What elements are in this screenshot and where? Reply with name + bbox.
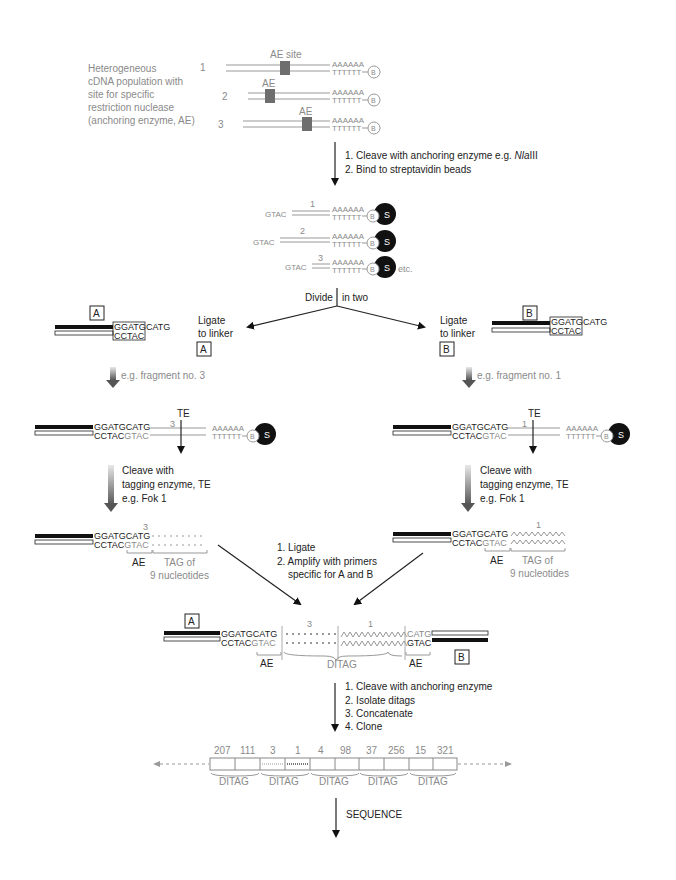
svg-text:1. Ligate: 1. Ligate: [277, 542, 316, 553]
svg-text:CCTACGTAC: CCTACGTAC: [221, 638, 276, 648]
svg-text:1. Cleave with anchoring enzym: 1. Cleave with anchoring enzyme: [345, 681, 493, 692]
svg-text:B: B: [526, 308, 533, 319]
svg-text:TE: TE: [528, 408, 541, 419]
svg-text:B: B: [371, 97, 376, 104]
svg-text:1: 1: [200, 62, 206, 73]
intro-description: Heterogeneous cDNA population with site …: [88, 63, 195, 126]
sage-diagram: Heterogeneous cDNA population with site …: [0, 0, 676, 880]
tag-fragment-a: GGATGCATG CCTACGTAC 3 AE TAG of 9 nucleo…: [35, 522, 209, 581]
svg-text:AE: AE: [262, 78, 276, 89]
svg-text:4. Clone: 4. Clone: [345, 721, 383, 732]
divide-label-left: Divide: [305, 292, 333, 303]
svg-text:S: S: [618, 430, 624, 440]
svg-text:GTAC: GTAC: [253, 238, 275, 247]
svg-text:3: 3: [270, 745, 276, 756]
cdna-2: 2 AE AAAAAA TTTTTT B: [222, 78, 380, 106]
svg-text:S: S: [384, 263, 390, 273]
svg-text:207: 207: [214, 745, 231, 756]
cleave-te-right: Cleave with tagging enzyme, TE e.g. Fok …: [461, 465, 569, 512]
linker-b: B GGATG CATG CCTAC Ligate to linker B e.…: [440, 306, 607, 388]
svg-text:DITAG: DITAG: [368, 776, 398, 787]
svg-text:B: B: [443, 344, 450, 355]
svg-text:TTTTTT: TTTTTT: [332, 68, 361, 77]
svg-text:tagging enzyme, TE: tagging enzyme, TE: [122, 479, 211, 490]
ae-site-block: [302, 117, 312, 131]
svg-text:B: B: [458, 652, 465, 663]
svg-text:37: 37: [366, 745, 378, 756]
svg-text:(anchoring enzyme, AE): (anchoring enzyme, AE): [88, 115, 195, 126]
svg-text:restriction nuclease: restriction nuclease: [88, 102, 175, 113]
bound-fragment-1: GTAC 1 AAAAAA TTTTTT B S: [265, 199, 396, 225]
svg-text:AE: AE: [299, 106, 313, 117]
cleave-te-left: Cleave with tagging enzyme, TE e.g. Fok …: [104, 465, 211, 512]
ae-site-block: [280, 61, 290, 75]
step1-line2: 2. Bind to streptavidin beads: [345, 164, 471, 175]
svg-text:e.g. Fok 1: e.g. Fok 1: [480, 493, 525, 504]
svg-text:etc.: etc.: [398, 264, 413, 274]
arrow-to-linker-a: [248, 306, 337, 327]
svg-text:DITAG: DITAG: [319, 776, 349, 787]
svg-text:CCTACGTAC: CCTACGTAC: [452, 431, 507, 441]
svg-text:TAG of: TAG of: [522, 555, 553, 566]
svg-text:GTAC: GTAC: [407, 638, 432, 648]
svg-text:AE: AE: [409, 658, 423, 669]
svg-text:DITAG: DITAG: [418, 776, 448, 787]
svg-text:DITAG: DITAG: [219, 776, 249, 787]
arrow-to-linker-b: [337, 306, 424, 327]
sequence-label: SEQUENCE: [346, 809, 402, 820]
svg-text:DITAG: DITAG: [327, 659, 357, 670]
svg-text:2: 2: [300, 226, 305, 236]
svg-text:site for specific: site for specific: [88, 89, 154, 100]
ligated-fragment-a: GGATGCATG CCTACGTAC 3 TE AAAAAA TTTTTT B…: [35, 408, 276, 452]
svg-text:B: B: [250, 433, 255, 440]
svg-text:Ligate: Ligate: [440, 315, 468, 326]
svg-text:3: 3: [143, 522, 148, 532]
svg-text:Cleave with: Cleave with: [122, 465, 174, 476]
concatemer: 207 111 3 1 4 98 37 256 15 321 DITAG DIT…: [153, 745, 512, 787]
bound-fragment-3: GTAC 3 AAAAAA TTTTTT B S etc.: [285, 253, 413, 278]
svg-text:3: 3: [170, 419, 175, 429]
svg-text:e.g. Fok 1: e.g. Fok 1: [122, 493, 167, 504]
svg-text:2. Isolate ditags: 2. Isolate ditags: [345, 695, 415, 706]
svg-text:3: 3: [218, 119, 224, 130]
svg-text:B: B: [371, 69, 376, 76]
svg-text:TTTTTT: TTTTTT: [332, 266, 361, 275]
tag-fragment-b: GGATGCATG CCTACGTAC 1 AE TAG of 9 nucleo…: [393, 520, 569, 579]
ae-site-block: [265, 89, 275, 103]
svg-text:AE site: AE site: [270, 49, 302, 60]
svg-text:CCTACGTAC: CCTACGTAC: [94, 431, 149, 441]
svg-text:AE: AE: [260, 658, 274, 669]
svg-text:B: B: [370, 213, 375, 220]
svg-text:256: 256: [388, 745, 405, 756]
svg-text:Heterogeneous: Heterogeneous: [88, 63, 156, 74]
svg-text:TTTTTT: TTTTTT: [212, 432, 241, 441]
svg-text:e.g. fragment no. 1: e.g. fragment no. 1: [477, 370, 561, 381]
svg-text:S: S: [384, 237, 390, 247]
svg-text:TTTTTT: TTTTTT: [566, 432, 595, 441]
svg-text:B: B: [370, 266, 375, 273]
svg-text:1: 1: [310, 199, 315, 209]
svg-text:TAG of: TAG of: [164, 557, 195, 568]
svg-text:DITAG: DITAG: [269, 776, 299, 787]
svg-text:CATG: CATG: [583, 317, 607, 327]
svg-text:A: A: [200, 344, 207, 355]
svg-text:B: B: [604, 433, 609, 440]
svg-text:CCTACGTAC: CCTACGTAC: [94, 540, 149, 550]
svg-text:1: 1: [536, 520, 541, 530]
svg-text:1: 1: [368, 619, 373, 629]
divide-label-right: in two: [342, 292, 369, 303]
svg-text:A: A: [188, 616, 195, 627]
svg-text:TTTTTT: TTTTTT: [332, 96, 361, 105]
svg-text:111: 111: [240, 745, 256, 756]
bound-fragment-2: GTAC 2 AAAAAA TTTTTT B S: [253, 226, 396, 252]
svg-text:B: B: [370, 240, 375, 247]
svg-text:TTTTTT: TTTTTT: [332, 240, 361, 249]
svg-text:cDNA population with: cDNA population with: [88, 76, 183, 87]
svg-text:B: B: [371, 125, 376, 132]
svg-text:TE: TE: [177, 408, 190, 419]
svg-text:CCTAC: CCTAC: [551, 326, 582, 336]
svg-text:3. Concatenate: 3. Concatenate: [345, 708, 413, 719]
svg-text:98: 98: [340, 745, 352, 756]
svg-text:CATG: CATG: [146, 322, 170, 332]
svg-text:15: 15: [415, 745, 427, 756]
